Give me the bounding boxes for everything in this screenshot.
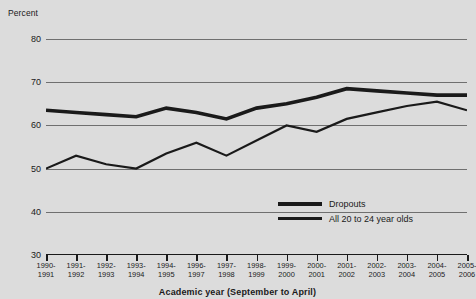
x-label-top: 1993- (127, 261, 146, 270)
x-label-top: 2000- (307, 261, 326, 270)
x-label-bottom: 2000 (278, 270, 294, 279)
x-label-bottom: 2002 (338, 270, 354, 279)
x-tick-label-13: 2004-2005 (427, 261, 446, 280)
y-tick-label-50: 50 (31, 164, 41, 174)
y-tick-label-30: 30 (31, 250, 41, 260)
x-tick-label-10: 2001-2002 (337, 261, 356, 280)
x-tick-label-9: 2000-2001 (307, 261, 326, 280)
y-axis-title: Percent (8, 8, 38, 18)
x-label-bottom: 1992 (68, 270, 84, 279)
x-tick-label-4: 1994-1995 (157, 261, 176, 280)
x-label-top: 1991- (67, 261, 86, 270)
y-tick-label-70: 70 (31, 77, 41, 87)
x-label-top: 1994- (157, 261, 176, 270)
legend: DropoutsAll 20 to 24 year olds (278, 196, 468, 226)
x-label-bottom: 2006 (459, 270, 475, 279)
x-tick-label-7: 1998-1999 (247, 261, 266, 280)
x-label-bottom: 1993 (98, 270, 114, 279)
x-label-bottom: 1991 (38, 270, 54, 279)
x-label-top: 2003- (397, 261, 416, 270)
x-label-top: 2002- (367, 261, 386, 270)
x-label-bottom: 2005 (429, 270, 445, 279)
legend-label: Dropouts (329, 199, 366, 209)
x-tick-labels: 1990-19911991-19921992-19931993-19941994… (0, 261, 475, 283)
x-label-top: 1992- (97, 261, 116, 270)
x-label-bottom: 2003 (369, 270, 385, 279)
x-tick-label-3: 1993-1994 (127, 261, 146, 280)
y-tick-label-80: 80 (31, 34, 41, 44)
x-label-top: 1990- (37, 261, 56, 270)
x-label-bottom: 1999 (248, 270, 264, 279)
x-tick-label-0: 1990-1991 (37, 261, 56, 280)
legend-item-1: All 20 to 24 year olds (278, 211, 468, 226)
x-label-top: 2001- (337, 261, 356, 270)
x-label-top: 2004- (427, 261, 446, 270)
x-tick-label-2: 1992-1993 (97, 261, 116, 280)
x-label-bottom: 1994 (128, 270, 144, 279)
x-tick-label-5: 1996-1997 (187, 261, 206, 280)
x-label-bottom: 1998 (218, 270, 234, 279)
x-tick-label-14: 2005-2006 (458, 261, 476, 280)
y-tick-label-40: 40 (31, 207, 41, 217)
x-tick-label-8: 1999-2000 (277, 261, 296, 280)
series-line-dropouts (46, 89, 467, 119)
x-label-bottom: 1995 (158, 270, 174, 279)
series-line-all-20-to-24-year-olds (46, 102, 467, 169)
x-label-top: 1998- (247, 261, 266, 270)
x-label-bottom: 2004 (399, 270, 415, 279)
x-label-bottom: 2001 (308, 270, 324, 279)
x-axis-title: Academic year (September to April) (0, 287, 475, 297)
x-label-top: 1999- (277, 261, 296, 270)
legend-swatch-thin (278, 217, 322, 220)
x-tick-label-12: 2003-2004 (397, 261, 416, 280)
x-label-top: 1996- (187, 261, 206, 270)
legend-label: All 20 to 24 year olds (329, 214, 413, 224)
x-label-top: 1997- (217, 261, 236, 270)
x-tick-label-11: 2002-2003 (367, 261, 386, 280)
x-tick-label-1: 1991-1992 (67, 261, 86, 280)
legend-item-0: Dropouts (278, 196, 468, 211)
x-label-bottom: 1997 (188, 270, 204, 279)
legend-swatch-thick (278, 202, 322, 206)
x-tick-label-6: 1997-1998 (217, 261, 236, 280)
x-label-top: 2005- (458, 261, 476, 270)
y-tick-label-60: 60 (31, 120, 41, 130)
